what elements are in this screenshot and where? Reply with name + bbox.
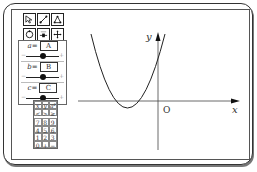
line-segment-icon: [39, 15, 48, 24]
slider-plus: +: [59, 51, 64, 58]
param-a-input[interactable]: A: [40, 41, 58, 51]
param-a-slider[interactable]: − +: [19, 51, 66, 61]
param-b-label: b=: [27, 63, 37, 71]
line-tool-button[interactable]: [37, 13, 50, 26]
key-less-than[interactable]: <: [34, 109, 42, 117]
move-icon: [53, 30, 62, 39]
key-1[interactable]: 1: [34, 133, 42, 141]
origin-label: O: [163, 105, 170, 115]
slider-plus: +: [59, 93, 64, 100]
key-5[interactable]: 5: [42, 126, 50, 134]
y-axis-label: y: [145, 31, 152, 42]
param-a-label: a=: [27, 42, 37, 50]
slider-knob[interactable]: [40, 74, 46, 80]
key-7[interactable]: 7: [34, 118, 42, 126]
parabola-curve[interactable]: [91, 34, 165, 108]
slider-plus: +: [59, 72, 64, 79]
select-tool-button[interactable]: [23, 13, 36, 26]
circle-icon: [25, 30, 34, 39]
key-y[interactable]: y: [42, 101, 50, 109]
key-6[interactable]: 6: [49, 126, 57, 134]
key-plus[interactable]: +: [42, 141, 50, 149]
param-c-input[interactable]: C: [39, 83, 57, 93]
param-b-slider[interactable]: − +: [19, 72, 66, 82]
keypad: x y a² < > ≥ 7 8 9 4 5 6 1 2 3 0 + −: [33, 100, 58, 149]
key-9[interactable]: 9: [49, 118, 57, 126]
y-axis-arrow-icon: [156, 32, 161, 41]
x-axis-label: x: [232, 104, 238, 115]
slider-knob[interactable]: [40, 53, 46, 59]
key-2[interactable]: 2: [42, 133, 50, 141]
toolbar: [23, 13, 63, 41]
key-greater-equal[interactable]: ≥: [49, 109, 57, 117]
parameter-panel: a= A − + b= B − + c= C − +: [18, 40, 67, 105]
key-minus[interactable]: −: [49, 141, 57, 149]
key-0[interactable]: 0: [34, 141, 42, 149]
graph-canvas[interactable]: x y O: [75, 10, 248, 158]
param-c-row: c= C: [19, 83, 66, 93]
param-b-input[interactable]: B: [40, 62, 58, 72]
key-x[interactable]: x: [34, 101, 42, 109]
key-greater-than[interactable]: >: [42, 109, 50, 117]
key-8[interactable]: 8: [42, 118, 50, 126]
param-c-label: c=: [28, 84, 38, 92]
select-arrow-icon: [25, 15, 34, 24]
key-a-squared[interactable]: a²: [49, 101, 57, 109]
polygon-icon: [53, 15, 62, 24]
param-b-row: b= B: [19, 62, 66, 72]
x-axis-arrow-icon: [231, 99, 240, 104]
param-a-row: a= A: [19, 41, 66, 51]
key-3[interactable]: 3: [49, 133, 57, 141]
slider-icon: [39, 30, 48, 39]
polygon-tool-button[interactable]: [51, 13, 64, 26]
key-4[interactable]: 4: [34, 126, 42, 134]
